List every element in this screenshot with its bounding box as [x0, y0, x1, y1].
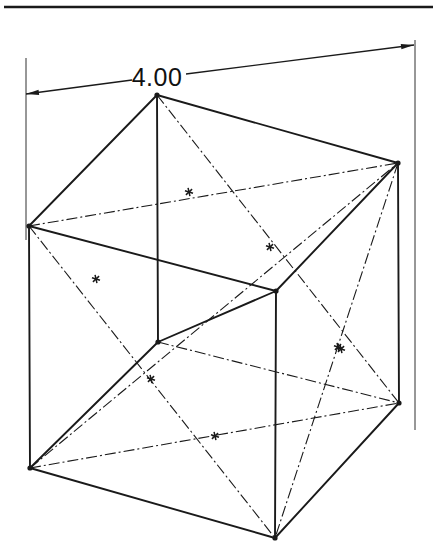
- edge-right-upper-to-center-front: [276, 163, 398, 291]
- edge-left-upper-to-left-lower: [29, 226, 30, 468]
- edge-center-front-to-bottom: [275, 291, 276, 538]
- center-marker-upper-left: [185, 188, 193, 196]
- dimension-arrowhead-left: [26, 90, 39, 95]
- vertex-left-upper: [26, 223, 31, 228]
- isometric-cube-drawing: 4.00: [0, 0, 437, 560]
- edge-center-front-to-mid-front-low: [158, 291, 276, 342]
- dimension-leader-left: [26, 80, 132, 94]
- center-marker-upper-face: [266, 243, 274, 251]
- dimension-value-text: 4.00: [132, 63, 183, 91]
- edge-top-to-right-upper: [157, 95, 398, 163]
- vertex-mid-front-low: [155, 339, 160, 344]
- dimension-leader-right: [186, 45, 414, 74]
- vertex-bottom: [272, 535, 277, 540]
- edge-right-lower-to-bottom: [275, 403, 399, 538]
- vertex-right-upper: [395, 160, 400, 165]
- vertex-left-lower: [27, 465, 32, 470]
- vertex-top: [154, 92, 159, 97]
- edge-left-upper-to-center-front: [29, 226, 276, 291]
- diagonal-top-to-right-lower: [157, 95, 399, 403]
- diagonal-left-upper-to-right-upper: [29, 163, 398, 226]
- edge-top-to-left-upper: [29, 95, 157, 226]
- diagonal-right-upper-to-bottom: [275, 163, 398, 538]
- vertex-center-front: [273, 288, 278, 293]
- center-marker-lower-mid: [211, 432, 219, 440]
- drawing-sheet: 4.00: [0, 0, 437, 560]
- edge-left-lower-to-bottom: [30, 468, 275, 538]
- center-marker-lower-left: [147, 375, 155, 383]
- edge-right-upper-to-right-lower: [398, 163, 399, 403]
- diagonal-mid-front-low-to-right-lower: [158, 342, 399, 403]
- edge-top-to-mid-front-low: [157, 95, 158, 342]
- vertex-right-lower: [396, 400, 401, 405]
- diagonal-left-lower-to-right-upper: [30, 163, 398, 468]
- center-marker-left-mid: [92, 275, 100, 283]
